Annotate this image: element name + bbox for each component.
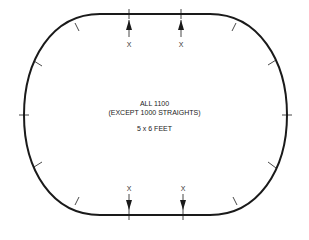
marker-label-top-left: X bbox=[127, 41, 132, 48]
tick-mark bbox=[233, 197, 237, 205]
tick-mark bbox=[34, 162, 42, 167]
arrow-up-icon bbox=[178, 20, 184, 37]
tick-mark bbox=[34, 61, 42, 66]
marker-label-top-right: X bbox=[179, 41, 184, 48]
arrow-down-icon bbox=[180, 194, 186, 210]
track-spec-line2: (EXCEPT 1000 STRAIGHTS) bbox=[0, 109, 309, 116]
layout-size-label: 5 x 6 FEET bbox=[0, 125, 309, 132]
track-spec-line1: ALL 1100 bbox=[0, 100, 309, 107]
tick-mark bbox=[75, 197, 79, 205]
tick-mark bbox=[75, 23, 79, 31]
tick-mark bbox=[232, 23, 236, 31]
arrow-down-icon bbox=[126, 194, 132, 210]
marker-label-bottom-right: X bbox=[181, 185, 186, 192]
marker-label-bottom-left: X bbox=[127, 185, 132, 192]
tick-mark bbox=[268, 60, 276, 65]
tick-mark bbox=[268, 162, 276, 168]
arrow-up-icon bbox=[126, 20, 132, 37]
